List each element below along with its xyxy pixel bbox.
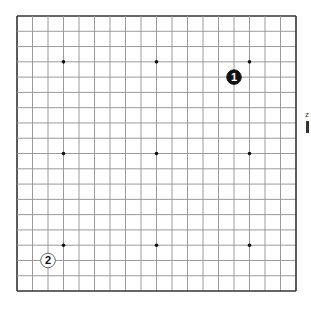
cropped-edge-bar: [306, 121, 309, 133]
star-point-icon: [155, 243, 159, 247]
star-point-icon: [155, 152, 159, 156]
go-board[interactable]: 12: [0, 0, 311, 310]
white-stone[interactable]: 2: [41, 253, 56, 268]
cropped-edge-text: z: [305, 110, 309, 119]
star-point-icon: [248, 152, 252, 156]
star-point-icon: [62, 60, 66, 64]
star-point-icon: [62, 152, 66, 156]
move-number-label: 1: [231, 71, 237, 83]
black-stone[interactable]: 1: [227, 70, 242, 85]
star-point-icon: [155, 60, 159, 64]
star-point-icon: [248, 243, 252, 247]
move-number-label: 2: [45, 254, 51, 266]
star-point-icon: [62, 243, 66, 247]
star-point-icon: [248, 60, 252, 64]
